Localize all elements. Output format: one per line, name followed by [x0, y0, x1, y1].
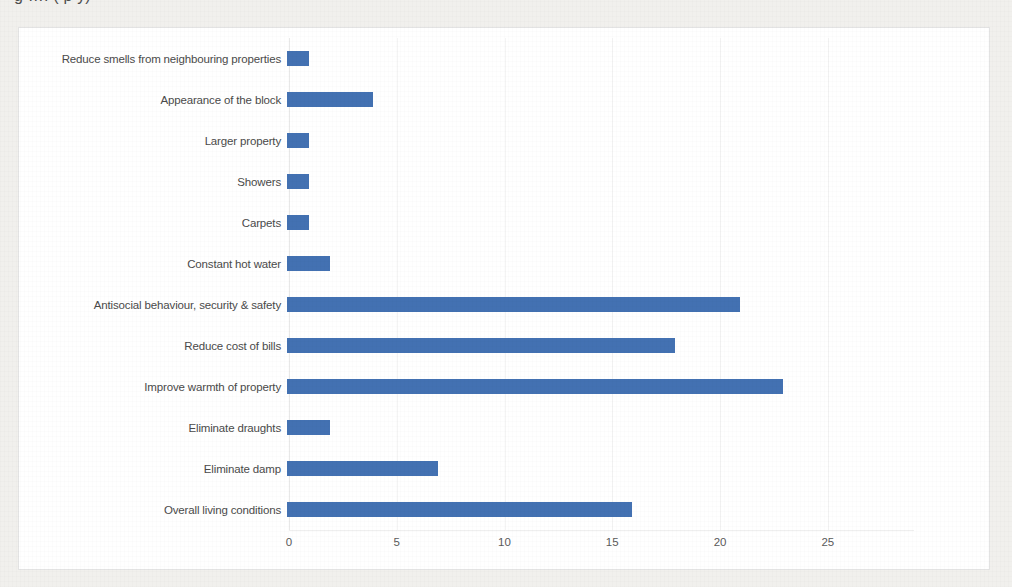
chart-row: Appearance of the block: [19, 79, 989, 120]
category-label: Improve warmth of property: [19, 381, 287, 393]
chart-row: Carpets: [19, 202, 989, 243]
bar: [287, 256, 330, 271]
chart-plot-wrapper: Reduce smells from neighbouring properti…: [19, 28, 989, 569]
chart-row: Reduce cost of bills: [19, 325, 989, 366]
category-label: Eliminate damp: [19, 463, 287, 475]
category-label: Larger property: [19, 135, 287, 147]
bar: [287, 338, 675, 353]
category-label: Antisocial behaviour, security & safety: [19, 299, 287, 311]
bar: [287, 379, 783, 394]
category-label: Eliminate draughts: [19, 422, 287, 434]
document-title: g …. ( p y): [14, 0, 534, 9]
category-label: Reduce cost of bills: [19, 340, 287, 352]
chart-row: Constant hot water: [19, 243, 989, 284]
chart-container: Reduce smells from neighbouring properti…: [18, 27, 990, 570]
chart-row: Reduce smells from neighbouring properti…: [19, 38, 989, 79]
bar: [287, 133, 309, 148]
category-label: Constant hot water: [19, 258, 287, 270]
chart-row: Larger property: [19, 120, 989, 161]
bar: [287, 297, 740, 312]
x-tick-label-15: 15: [606, 536, 619, 548]
bar: [287, 174, 309, 189]
x-axis-line: [289, 530, 914, 531]
category-label: Reduce smells from neighbouring properti…: [19, 53, 287, 65]
chart-row: Showers: [19, 161, 989, 202]
category-label: Appearance of the block: [19, 94, 287, 106]
category-label: Showers: [19, 176, 287, 188]
x-tick-label-5: 5: [394, 536, 400, 548]
x-tick-label-0: 0: [286, 536, 292, 548]
category-label: Overall living conditions: [19, 504, 287, 516]
bar-rows: Reduce smells from neighbouring properti…: [19, 38, 989, 530]
bar: [287, 51, 309, 66]
chart-row: Eliminate draughts: [19, 407, 989, 448]
x-tick-label-20: 20: [714, 536, 727, 548]
chart-row: Antisocial behaviour, security & safety: [19, 284, 989, 325]
bar: [287, 215, 309, 230]
bar: [287, 420, 330, 435]
bar: [287, 461, 438, 476]
chart-row: Eliminate damp: [19, 448, 989, 489]
x-axis-tick-labels: 0510152025: [289, 536, 914, 556]
chart-row: Improve warmth of property: [19, 366, 989, 407]
x-tick-label-10: 10: [498, 536, 511, 548]
bar: [287, 502, 632, 517]
bar: [287, 92, 373, 107]
category-label: Carpets: [19, 217, 287, 229]
x-tick-label-25: 25: [821, 536, 834, 548]
chart-row: Overall living conditions: [19, 489, 989, 530]
